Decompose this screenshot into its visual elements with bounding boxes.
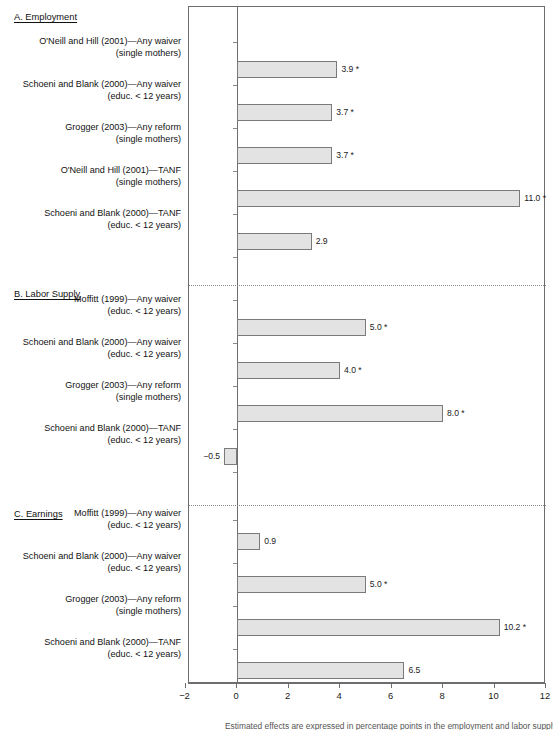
section-heading-panel-b: B. Labor Supply [14, 289, 80, 299]
section-heading-label: A. Employment [14, 12, 77, 22]
row-label-line2: (educ. < 12 years) [44, 435, 181, 447]
y-tick-panel-a-0 [233, 42, 237, 43]
section-heading-panel-c: C. Earnings [14, 509, 63, 519]
y-tick-panel-c-2 [233, 606, 237, 607]
row-label-line2: (single mothers) [65, 606, 181, 618]
y-tick-panel-c-0 [233, 520, 237, 521]
x-tick-3 [339, 683, 340, 688]
bar-value-label-panel-c-3: 6.5 [404, 662, 420, 679]
figure-footnote: Estimated effects are expressed in perce… [225, 721, 553, 730]
bar-panel-c-1 [237, 576, 366, 593]
row-label-line1: Moffitt (1999)—Any waiver [74, 294, 181, 306]
y-tick-panel-a-5 [233, 257, 237, 258]
x-tick-label-0: −2 [165, 690, 205, 701]
y-tick-panel-b-2 [233, 386, 237, 387]
row-label-panel-b-3: Schoeni and Blank (2000)—TANF(educ. < 12… [44, 423, 181, 446]
section-divider-2 [189, 505, 546, 506]
bar-value-label-panel-a-4: 2.9 [312, 233, 328, 250]
row-label-panel-b-0: Moffitt (1999)—Any waiver(educ. < 12 yea… [74, 294, 181, 317]
x-tick-label-1: 0 [216, 690, 256, 701]
row-label-panel-c-3: Schoeni and Blank (2000)—TANF(educ. < 12… [44, 637, 181, 660]
y-tick-panel-b-1 [233, 343, 237, 344]
bar-panel-a-2 [237, 147, 332, 164]
row-label-panel-a-4: Schoeni and Blank (2000)—TANF(educ. < 12… [44, 208, 181, 231]
row-label-panel-c-1: Schoeni and Blank (2000)—Any waiver(educ… [23, 551, 181, 574]
bar-value-label-panel-a-2: 3.7 * [332, 147, 354, 164]
bar-panel-a-3 [237, 190, 520, 207]
bar-panel-c-2 [237, 619, 500, 636]
bar-value-label-panel-b-0: 5.0 * [366, 319, 388, 336]
row-label-line1: Grogger (2003)—Any reform [65, 122, 181, 134]
row-label-panel-c-0: Moffitt (1999)—Any waiver(educ. < 12 yea… [74, 508, 181, 531]
bar-value-label-panel-b-3: −0.5 [189, 448, 224, 465]
row-label-panel-a-3: O'Neill and Hill (2001)—TANF(single moth… [61, 165, 181, 188]
row-label-line1: Grogger (2003)—Any reform [65, 594, 181, 606]
y-tick-panel-a-4 [233, 214, 237, 215]
section-heading-label: B. Labor Supply [14, 289, 80, 299]
plot-frame: 3.9 *3.7 *3.7 *11.0 *2.95.0 *4.0 *8.0 *−… [188, 6, 545, 683]
y-tick-panel-a-1 [233, 85, 237, 86]
x-tick-label-7: 12 [525, 690, 553, 701]
row-label-line2: (educ. < 12 years) [23, 349, 181, 361]
row-label-line2: (single mothers) [39, 48, 181, 60]
x-tick-4 [391, 683, 392, 688]
bar-panel-b-2 [237, 405, 443, 422]
y-tick-panel-b-3 [233, 429, 237, 430]
row-label-line1: Grogger (2003)—Any reform [65, 380, 181, 392]
row-label-line2: (educ. < 12 years) [44, 220, 181, 232]
x-tick-label-2: 2 [268, 690, 308, 701]
section-divider-1 [189, 285, 546, 286]
row-label-line1: O'Neill and Hill (2001)—TANF [61, 165, 181, 177]
row-label-panel-b-1: Schoeni and Blank (2000)—Any waiver(educ… [23, 337, 181, 360]
bar-panel-a-4 [237, 233, 312, 250]
x-tick-label-6: 10 [474, 690, 514, 701]
row-label-line1: O'Neill and Hill (2001)—Any waiver [39, 36, 181, 48]
x-tick-7 [545, 683, 546, 688]
row-label-line1: Moffitt (1999)—Any waiver [74, 508, 181, 520]
x-tick-1 [236, 683, 237, 688]
section-heading-label: C. Earnings [14, 509, 63, 519]
x-tick-5 [442, 683, 443, 688]
y-tick-panel-c-3 [233, 649, 237, 650]
bar-chart-figure: 3.9 *3.7 *3.7 *11.0 *2.95.0 *4.0 *8.0 *−… [0, 0, 553, 730]
section-heading-panel-a: A. Employment [14, 12, 77, 22]
row-label-panel-a-2: Grogger (2003)—Any reform(single mothers… [65, 122, 181, 145]
y-tick-panel-a-3 [233, 171, 237, 172]
bar-panel-c-0 [237, 533, 260, 550]
row-label-line2: (educ. < 12 years) [74, 520, 181, 532]
x-tick-label-5: 8 [422, 690, 462, 701]
row-label-panel-c-2: Grogger (2003)—Any reform(single mothers… [65, 594, 181, 617]
x-tick-2 [288, 683, 289, 688]
bar-panel-b-3 [224, 448, 237, 465]
row-label-panel-b-2: Grogger (2003)—Any reform(single mothers… [65, 380, 181, 403]
row-label-line2: (educ. < 12 years) [23, 563, 181, 575]
bar-value-label-panel-c-2: 10.2 * [500, 619, 526, 636]
row-label-line2: (educ. < 12 years) [44, 649, 181, 661]
row-label-line1: Schoeni and Blank (2000)—Any waiver [23, 79, 181, 91]
row-label-line1: Schoeni and Blank (2000)—TANF [44, 637, 181, 649]
y-tick-panel-c-1 [233, 563, 237, 564]
bar-panel-a-0 [237, 61, 337, 78]
x-axis-line [188, 683, 546, 684]
x-tick-6 [494, 683, 495, 688]
row-label-line2: (educ. < 12 years) [74, 306, 181, 318]
row-label-line2: (single mothers) [65, 134, 181, 146]
bar-value-label-panel-b-2: 8.0 * [443, 405, 465, 422]
bar-panel-a-1 [237, 104, 332, 121]
x-tick-0 [185, 683, 186, 688]
bar-panel-b-1 [237, 362, 340, 379]
bar-value-label-panel-c-1: 5.0 * [366, 576, 388, 593]
x-tick-label-3: 4 [319, 690, 359, 701]
y-tick-panel-b-4 [233, 472, 237, 473]
bar-value-label-panel-c-0: 0.9 [260, 533, 276, 550]
row-label-panel-a-1: Schoeni and Blank (2000)—Any waiver(educ… [23, 79, 181, 102]
bar-value-label-panel-a-3: 11.0 * [520, 190, 546, 207]
row-label-panel-a-0: O'Neill and Hill (2001)—Any waiver(singl… [39, 36, 181, 59]
row-label-line1: Schoeni and Blank (2000)—Any waiver [23, 551, 181, 563]
x-tick-label-4: 6 [371, 690, 411, 701]
y-tick-panel-a-2 [233, 128, 237, 129]
row-label-line1: Schoeni and Blank (2000)—Any waiver [23, 337, 181, 349]
row-label-line2: (single mothers) [65, 392, 181, 404]
y-tick-panel-b-0 [233, 300, 237, 301]
bar-value-label-panel-a-0: 3.9 * [337, 61, 359, 78]
